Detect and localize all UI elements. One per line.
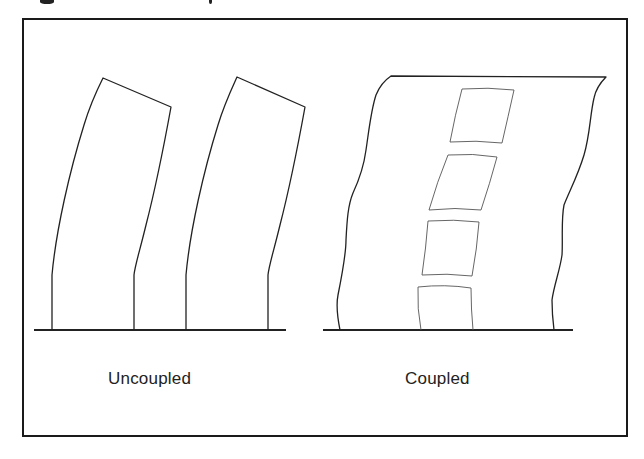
uncoupled-wall-1	[52, 78, 171, 330]
opening-2	[429, 154, 497, 210]
uncoupled-label: Uncoupled	[108, 369, 191, 389]
coupled-openings	[418, 88, 514, 330]
coupled-label: Coupled	[405, 369, 470, 389]
uncoupled-wall-2	[186, 77, 305, 330]
opening-3	[422, 220, 479, 276]
coupled-wall	[337, 76, 606, 330]
uncoupled-panel	[34, 77, 305, 330]
wall-diagram	[0, 0, 644, 459]
coupled-panel	[323, 76, 606, 330]
opening-4	[418, 286, 473, 330]
opening-1	[450, 88, 514, 143]
